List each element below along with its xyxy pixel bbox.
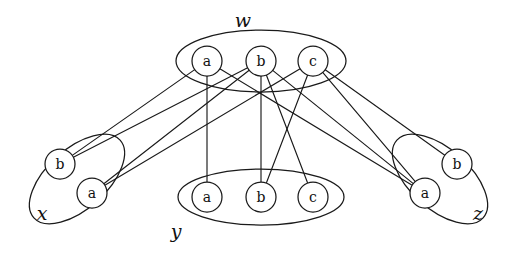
node-label-x-a: a xyxy=(88,185,96,201)
group-ellipse-z xyxy=(377,118,503,240)
node-label-z-a: a xyxy=(421,185,429,201)
node-label-y-b: b xyxy=(257,189,266,205)
edge-wc-zb xyxy=(325,70,445,156)
diagram-canvas: abcbaabcba wxyz xyxy=(0,0,517,261)
edges-layer xyxy=(72,68,445,185)
edge-wc-xa xyxy=(105,69,300,186)
node-label-w-c: c xyxy=(309,53,317,69)
node-label-y-c: c xyxy=(309,189,317,205)
group-label-x: x xyxy=(37,202,48,224)
node-label-y-a: a xyxy=(203,189,211,205)
edge-wa-za xyxy=(220,69,412,185)
node-label-z-b: b xyxy=(453,156,462,172)
edge-wc-za xyxy=(323,72,416,181)
edge-wb-xa xyxy=(104,70,249,184)
group-label-z: z xyxy=(472,202,484,224)
node-label-w-a: a xyxy=(203,53,211,69)
group-label-w: w xyxy=(235,9,251,31)
node-label-x-b: b xyxy=(56,156,65,172)
graph-svg: abcbaabcba wxyz xyxy=(0,0,517,261)
group-label-y: y xyxy=(170,220,182,242)
edge-wb-xb xyxy=(73,68,247,157)
node-label-w-b: b xyxy=(257,53,266,69)
edge-wb-za xyxy=(273,70,414,183)
group-ellipse-x xyxy=(14,118,140,240)
